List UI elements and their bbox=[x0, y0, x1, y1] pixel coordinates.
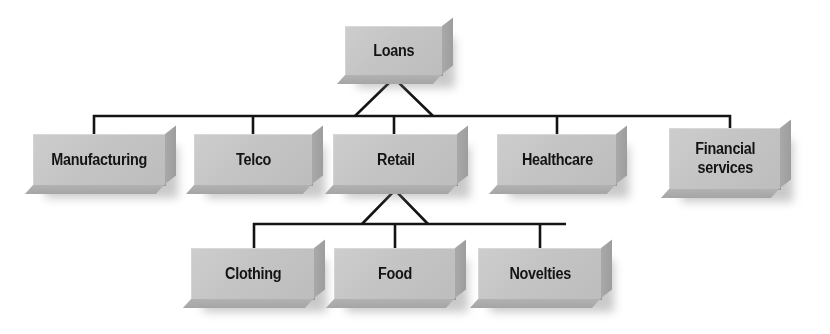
node-retail[interactable]: Retail bbox=[333, 134, 458, 186]
node-retail-label: Retail bbox=[373, 151, 418, 168]
node-novelties[interactable]: Novelties bbox=[478, 248, 602, 300]
node-manufacturing-label: Manufacturing bbox=[48, 151, 151, 168]
node-loans-label: Loans bbox=[370, 42, 418, 59]
node-healthcare-label: Healthcare bbox=[518, 151, 596, 168]
hierarchy-diagram: Loans Manufacturing Telco Retail Healthc… bbox=[0, 0, 830, 334]
node-financial-services-label: Financial services bbox=[691, 140, 758, 177]
node-food-label: Food bbox=[374, 265, 415, 282]
node-loans[interactable]: Loans bbox=[345, 26, 443, 76]
node-novelties-label: Novelties bbox=[506, 265, 575, 282]
node-telco[interactable]: Telco bbox=[194, 134, 313, 186]
node-food[interactable]: Food bbox=[334, 248, 456, 300]
node-manufacturing[interactable]: Manufacturing bbox=[33, 134, 166, 186]
node-clothing[interactable]: Clothing bbox=[191, 248, 315, 300]
node-financial-services[interactable]: Financial services bbox=[669, 128, 781, 190]
node-clothing-label: Clothing bbox=[221, 265, 284, 282]
node-telco-label: Telco bbox=[232, 151, 274, 168]
node-healthcare[interactable]: Healthcare bbox=[497, 134, 617, 186]
